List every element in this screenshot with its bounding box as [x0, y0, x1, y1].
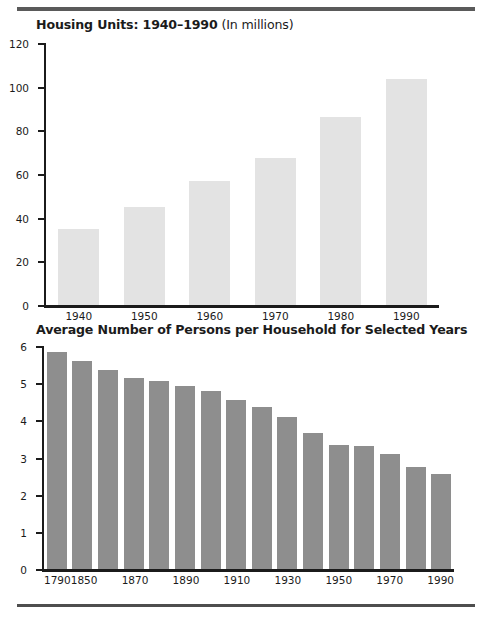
household-bar-slot — [198, 346, 224, 569]
housing-units-x-tick-label-group: 194019501960197019801990 — [46, 311, 439, 322]
household-y-tick-label: 1 — [20, 528, 27, 539]
household-x-tick-label: 1790 — [44, 575, 71, 586]
household-bar-slot — [44, 346, 70, 569]
housing-units-bar-slot — [46, 43, 112, 305]
housing-units-bar — [320, 117, 361, 305]
household-y-tick: 5 — [36, 383, 42, 385]
housing-units-bar-slot — [243, 43, 309, 305]
household-bar — [303, 433, 323, 569]
housing-units-plot-area: 020406080100120 194019501960197019801990 — [44, 43, 439, 308]
housing-units-y-tick-label: 80 — [16, 126, 29, 137]
household-y-tick: 1 — [36, 532, 42, 534]
housing-units-y-tick-label: 20 — [16, 257, 29, 268]
household-bar — [72, 361, 92, 569]
housing-units-y-tick-label: 0 — [22, 301, 29, 312]
housing-units-y-tick-label: 100 — [9, 82, 29, 93]
household-x-tick-label: 1990 — [427, 575, 454, 586]
household-y-tick-label: 2 — [20, 490, 27, 501]
household-x-tick-label: 1910 — [224, 575, 251, 586]
bottom-divider-rule — [17, 604, 475, 607]
housing-units-bar — [58, 229, 99, 305]
household-bar-slot — [147, 346, 173, 569]
household-bar — [252, 407, 272, 569]
housing-units-y-tick: 60 — [38, 174, 44, 176]
housing-units-chart-title: Housing Units: 1940–1990 (In millions) — [36, 17, 294, 32]
household-y-tick: 2 — [36, 495, 42, 497]
household-x-axis — [42, 569, 454, 572]
household-y-tick-label: 5 — [20, 379, 27, 390]
housing-units-y-tick: 80 — [38, 130, 44, 132]
household-x-tick-label: 1870 — [122, 575, 149, 586]
housing-units-y-tick: 40 — [38, 218, 44, 220]
housing-units-bar — [386, 79, 427, 305]
household-bar-slot — [377, 346, 403, 569]
household-bar-slot — [326, 346, 352, 569]
household-bar — [406, 467, 426, 569]
household-y-tick: 4 — [36, 420, 42, 422]
household-bar-group — [44, 346, 454, 569]
household-bar — [149, 381, 169, 569]
household-bar — [380, 454, 400, 569]
household-bar-slot — [249, 346, 275, 569]
household-x-tick-label: 1890 — [173, 575, 200, 586]
household-x-tick-label: 1850 — [71, 575, 98, 586]
household-x-tick-label: 1970 — [376, 575, 403, 586]
housing-units-title-bold: Housing Units: 1940–1990 — [36, 17, 218, 32]
household-bar-slot — [275, 346, 301, 569]
household-bar-slot — [352, 346, 378, 569]
household-title-bold: Average Number of Persons per Household … — [36, 322, 467, 337]
household-bar-slot — [121, 346, 147, 569]
household-bar — [226, 400, 246, 569]
household-bar — [354, 446, 374, 569]
household-bar-slot — [300, 346, 326, 569]
housing-units-bar — [189, 181, 230, 305]
housing-units-y-tick: 120 — [38, 43, 44, 45]
household-x-tick-label: 1950 — [325, 575, 352, 586]
housing-units-bar-slot — [374, 43, 440, 305]
page-root: Housing Units: 1940–1990 (In millions) 0… — [0, 0, 491, 625]
housing-units-x-tick-label: 1980 — [308, 311, 374, 322]
household-bar — [98, 370, 118, 569]
household-bar-slot — [403, 346, 429, 569]
household-bar-slot — [172, 346, 198, 569]
housing-units-y-tick-label: 40 — [16, 213, 29, 224]
housing-units-x-tick-label: 1940 — [46, 311, 112, 322]
housing-units-y-tick: 100 — [38, 87, 44, 89]
household-bar — [124, 378, 144, 569]
household-y-tick-label: 3 — [20, 453, 27, 464]
housing-units-y-tick-label: 60 — [16, 170, 29, 181]
housing-units-y-tick: 0 — [38, 305, 44, 307]
housing-units-bar-slot — [112, 43, 178, 305]
housing-units-bar — [124, 207, 165, 305]
household-plot-area: 0123456 17901850 1870 1890 1910 1930 195… — [42, 346, 454, 572]
housing-units-y-tick: 20 — [38, 261, 44, 263]
figure-housing-units: Housing Units: 1940–1990 (In millions) 0… — [0, 17, 491, 315]
housing-units-x-axis — [44, 305, 439, 308]
household-bar — [47, 352, 67, 569]
household-bar-slot — [95, 346, 121, 569]
housing-units-x-tick-label: 1960 — [177, 311, 243, 322]
household-y-tick: 3 — [36, 458, 42, 460]
household-bar-slot — [70, 346, 96, 569]
household-y-tick-label: 4 — [20, 416, 27, 427]
household-bar — [175, 386, 195, 569]
household-y-tick-label: 6 — [20, 342, 27, 353]
housing-units-x-tick-label: 1990 — [374, 311, 440, 322]
housing-units-bar-slot — [308, 43, 374, 305]
housing-units-title-normal: (In millions) — [218, 17, 294, 32]
housing-units-bar-slot — [177, 43, 243, 305]
household-x-tick-label: 1930 — [274, 575, 301, 586]
household-y-tick: 0 — [36, 569, 42, 571]
household-bar — [431, 474, 451, 569]
household-bar-slot — [223, 346, 249, 569]
household-chart-title: Average Number of Persons per Household … — [36, 322, 467, 337]
top-divider-rule — [17, 7, 475, 11]
housing-units-x-tick-label: 1950 — [112, 311, 178, 322]
housing-units-bar — [255, 158, 296, 305]
household-y-tick: 6 — [36, 346, 42, 348]
household-x-tick-label-group: 17901850 1870 1890 1910 1930 1950 1970 1… — [44, 575, 454, 586]
housing-units-bar-group — [46, 43, 439, 305]
housing-units-y-tick-label: 120 — [9, 39, 29, 50]
household-y-tick-label: 0 — [20, 565, 27, 576]
household-bar-slot — [428, 346, 454, 569]
